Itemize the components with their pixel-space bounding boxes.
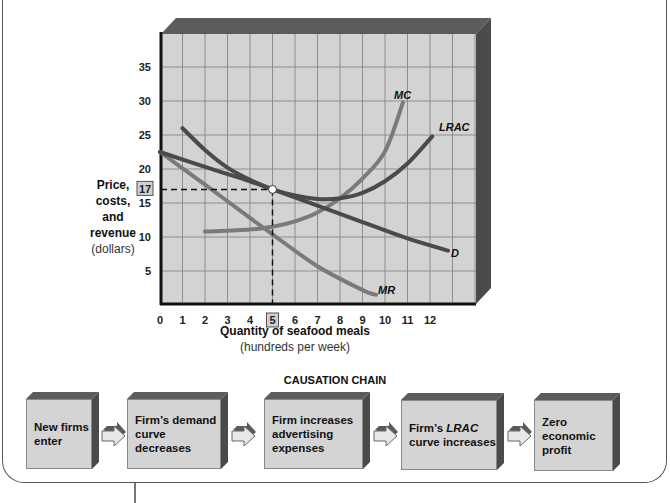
- chain-step-zero-profit: Zero economic profit: [534, 393, 620, 471]
- y-axis-label: Price, costs, and revenue (dollars): [80, 177, 146, 257]
- y-tick-label: 25: [139, 129, 151, 141]
- y-axis-label-line: Price,: [80, 177, 146, 193]
- x-axis-label: Quantity of seafood meals: [160, 324, 430, 338]
- y-axis-label-line: revenue: [80, 225, 146, 241]
- y-tick-label: 5: [145, 265, 151, 277]
- y-axis-unit: (dollars): [80, 241, 146, 257]
- y-axis-label-line: costs,: [80, 193, 146, 209]
- y-tick-label: 20: [139, 163, 151, 175]
- x-axis-unit: (hundreds per week): [160, 340, 430, 354]
- curve-label-d: D: [451, 247, 459, 259]
- equilibrium-point: [269, 185, 277, 193]
- chain-step-advertising-increases: Firm increases advertising expenses: [264, 392, 370, 469]
- y-tick-label: 30: [139, 95, 151, 107]
- frame-connector-line: [134, 483, 136, 503]
- curve-label-mc: MC: [394, 89, 412, 101]
- chain-step-lrac-increases: Firm’s LRAC curve increases: [401, 393, 504, 470]
- plot-bevel-side: [476, 18, 491, 304]
- y-tick-label: 35: [139, 61, 151, 73]
- chain-step-new-firms-enter: New firms enter: [26, 392, 99, 469]
- plot-bevel-top: [161, 18, 491, 34]
- causation-chain-title: CAUSATION CHAIN: [0, 374, 670, 386]
- chain-step-demand-decreases: Firm’s demand curve decreases: [127, 392, 228, 469]
- curve-label-mr: MR: [378, 284, 395, 296]
- y-axis-label-line: and: [80, 209, 146, 225]
- curve-label-lrac: LRAC: [439, 121, 471, 133]
